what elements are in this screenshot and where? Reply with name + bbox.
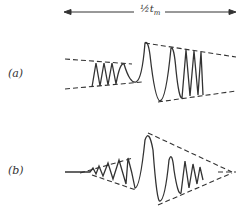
arrow-left-icon [64, 10, 71, 15]
panel-a-label: (a) [8, 67, 23, 80]
figure: ½tm (a) (b) [0, 0, 241, 219]
panel-a-envelope [65, 43, 236, 102]
panel-a-waveform [65, 43, 236, 103]
panel-b-label: (b) [8, 164, 24, 177]
waveform-diagram [0, 0, 241, 219]
half-t-m-label: ½tm [137, 3, 163, 17]
arrow-right-icon [229, 10, 236, 15]
panel-b-waveform [65, 133, 236, 205]
